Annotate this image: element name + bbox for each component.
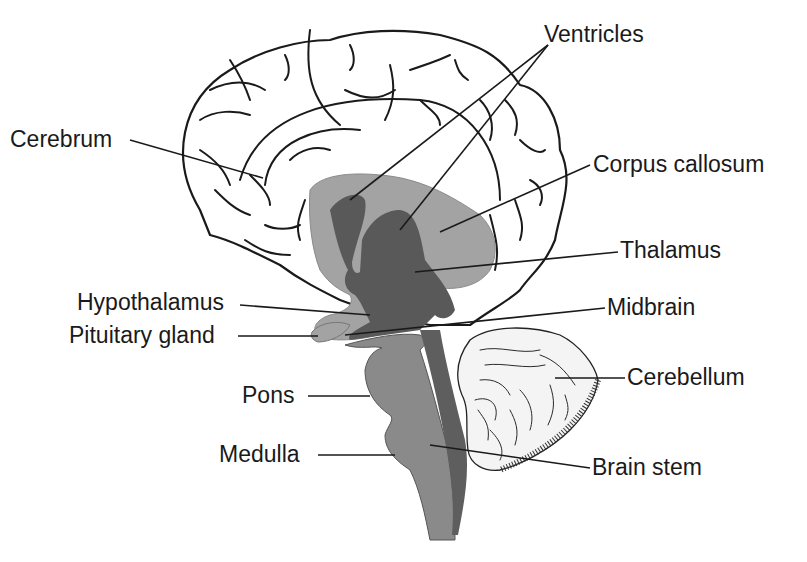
label-corpus-callosum: Corpus callosum [593,151,764,177]
label-brain-stem: Brain stem [592,454,702,480]
label-midbrain: Midbrain [607,294,695,320]
label-pons: Pons [242,382,294,408]
brain-diagram: Ventricles Cerebrum Corpus callosum Thal… [0,0,807,562]
label-thalamus: Thalamus [620,237,721,263]
label-cerebrum: Cerebrum [10,126,112,152]
label-medulla: Medulla [219,441,300,467]
label-hypothalamus: Hypothalamus [77,289,224,315]
label-cerebellum: Cerebellum [627,364,745,390]
label-pituitary-gland: Pituitary gland [69,322,215,348]
label-ventricles: Ventricles [544,21,644,47]
cerebellum [458,328,598,470]
